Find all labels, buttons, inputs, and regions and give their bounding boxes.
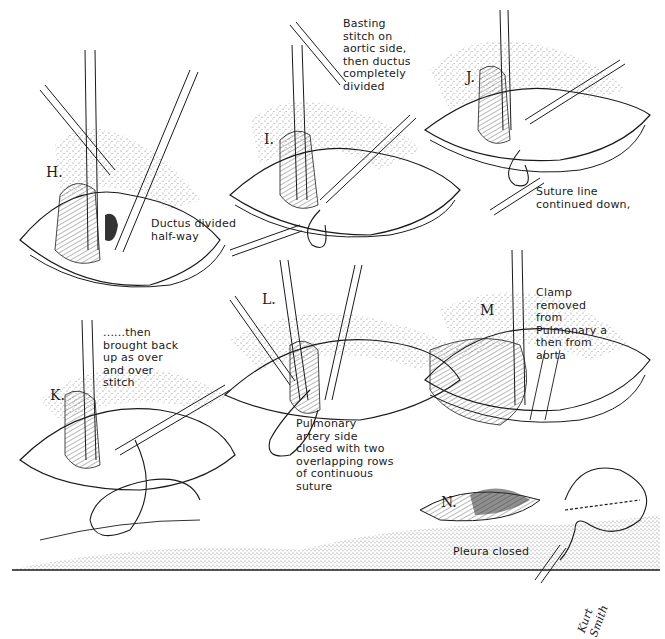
caption-j: Suture line continued down, [536, 186, 631, 211]
panel-label-n: N. [441, 495, 457, 509]
panel-label-h: H. [46, 165, 63, 179]
ground-stipple [10, 515, 660, 570]
surgical-illustration: H. I. J. K. L. M N. Ductus divided half-… [0, 0, 665, 639]
panel-label-j: J. [466, 70, 475, 84]
panel-label-k: K. [50, 388, 65, 402]
caption-h: Ductus divided half-way [151, 218, 236, 243]
panel-label-i: I. [264, 132, 274, 146]
panel-label-m: M [480, 303, 494, 317]
caption-k: ......then brought back up as over and o… [103, 327, 178, 390]
panel-label-l: L. [262, 292, 276, 306]
caption-n: Pleura closed [453, 546, 529, 559]
caption-i: Basting stitch on aortic side, then duct… [343, 18, 411, 93]
caption-m: Clamp removed from Pulmonary a then from… [536, 287, 607, 362]
caption-l: Pulmonary artery side closed with two ov… [296, 418, 394, 493]
